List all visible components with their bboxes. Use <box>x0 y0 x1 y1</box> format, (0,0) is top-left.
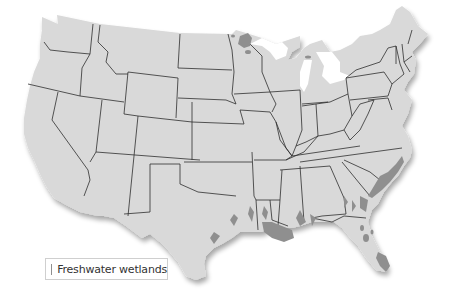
map-legend: Freshwater wetlands <box>45 258 168 280</box>
legend-label: Freshwater wetlands <box>57 263 167 276</box>
